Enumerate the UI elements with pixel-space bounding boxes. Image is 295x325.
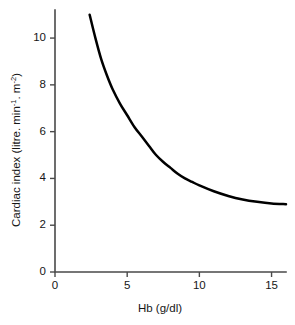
y-axis-title-group: Cardiac index (litre. min-1. m-2) bbox=[9, 73, 22, 227]
y-axis-title: Cardiac index (litre. min-1. m-2) bbox=[9, 73, 22, 227]
y-tick-label-10: 10 bbox=[33, 31, 46, 43]
x-tick-label-15: 15 bbox=[265, 279, 278, 291]
y-axis-tick-labels: 0246810 bbox=[33, 31, 46, 277]
data-series-group bbox=[90, 15, 286, 204]
data-curve-cardiac-index bbox=[90, 15, 286, 204]
axes-group bbox=[55, 10, 286, 272]
cardiac-index-vs-hb-chart: 0246810 051015 Cardiac index (litre. min… bbox=[0, 0, 295, 325]
y-tick-label-0: 0 bbox=[40, 265, 46, 277]
axis-lines bbox=[55, 10, 286, 272]
y-tick-label-8: 8 bbox=[40, 78, 46, 90]
x-tick-label-0: 0 bbox=[52, 279, 58, 291]
y-tick-label-6: 6 bbox=[40, 125, 46, 137]
x-axis-title-group: Hb (g/dl) bbox=[138, 302, 182, 314]
chart-figure: 0246810 051015 Cardiac index (litre. min… bbox=[0, 0, 295, 325]
x-tick-label-5: 5 bbox=[124, 279, 130, 291]
y-tick-label-4: 4 bbox=[40, 171, 47, 183]
x-axis-tick-labels: 051015 bbox=[52, 279, 278, 291]
y-tick-label-2: 2 bbox=[40, 218, 46, 230]
x-axis-title: Hb (g/dl) bbox=[138, 302, 182, 314]
x-tick-label-10: 10 bbox=[193, 279, 206, 291]
